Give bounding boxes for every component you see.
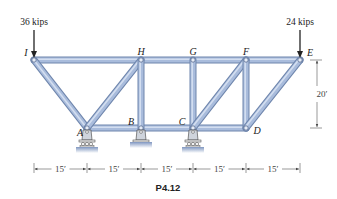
truss-members [33,59,300,128]
ground-hatch [182,147,204,153]
joint-D-pin [244,126,248,130]
joint-G-pin [191,58,195,62]
joint-label-E: E [306,47,313,58]
member-IE [33,59,300,60]
joint-A-pin [85,126,89,130]
dim-label-horizontal: 15′ [268,164,279,174]
joint-label-I: I [23,47,28,58]
member-IA [33,59,87,128]
load-label: 24 kips [286,17,314,27]
member-GC [192,59,193,128]
ground-hatch [76,147,98,153]
support-B-pin [130,130,152,148]
joint-label-G: G [189,46,196,57]
figure-caption: P4.12 [156,182,181,193]
joint-F-pin [244,58,248,62]
joint-C-pin [191,126,195,130]
truss-diagram: 36 kips24 kips IHGFEABCD 15′15′15′15′15′… [0,0,337,199]
joint-label-A: A [76,127,84,138]
truss-joints [32,58,302,130]
member-HB [140,59,141,128]
joint-I-pin [32,58,36,62]
joint-H-pin [139,58,143,62]
dim-label-horizontal: 15′ [162,164,173,174]
joint-B-pin [139,126,143,130]
support-C-roller [182,130,204,153]
dim-label-vertical: 20′ [317,89,328,99]
joint-label-B: B [128,116,134,127]
joint-E-pin [298,58,302,62]
applied-loads: 36 kips24 kips [20,17,314,58]
dim-label-horizontal: 15′ [109,164,120,174]
truss-supports [76,130,204,153]
load-label: 36 kips [20,17,48,27]
member-AD [86,127,246,128]
ground-hatch [130,142,152,148]
member-DE [245,59,300,128]
dim-label-horizontal: 15′ [214,164,225,174]
joint-label-H: H [136,46,145,57]
member-CF [192,59,246,128]
member-FD [245,59,246,128]
joint-label-D: D [252,125,261,136]
joint-label-F: F [242,46,250,57]
dim-label-horizontal: 15′ [55,164,66,174]
joint-label-C: C [179,116,186,127]
